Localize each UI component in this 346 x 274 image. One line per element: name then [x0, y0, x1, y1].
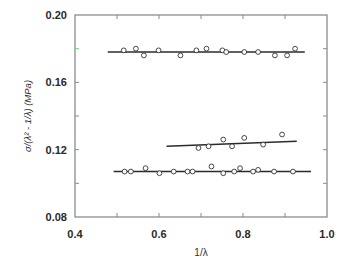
plot-frame: [75, 15, 327, 217]
data-point-lower: [291, 169, 296, 174]
tick-labels: 0.40.60.81.00.080.120.160.20: [46, 9, 335, 240]
data-point-upper: [242, 50, 247, 55]
data-point-upper: [121, 48, 126, 53]
y-tick-label: 0.12: [46, 144, 67, 156]
data-point-lower: [185, 169, 190, 174]
data-point-upper: [141, 53, 146, 58]
data-point-upper: [285, 53, 290, 58]
data-point-middle: [230, 144, 235, 149]
fit-lines: [108, 52, 311, 172]
data-point-lower: [122, 169, 127, 174]
data-point-lower: [221, 171, 226, 176]
data-point-lower: [238, 166, 243, 171]
data-point-upper: [156, 48, 161, 53]
data-point-upper: [273, 53, 278, 58]
x-tick-label: 1.0: [319, 228, 334, 240]
data-point-upper: [204, 46, 209, 51]
x-tick-label: 0.8: [235, 228, 250, 240]
axis-ticks: [75, 15, 327, 217]
plot-border: [75, 15, 327, 217]
data-point-lower: [256, 167, 261, 172]
data-point-middle: [196, 146, 201, 151]
data-point-lower: [232, 169, 237, 174]
x-tick-label: 0.6: [151, 228, 166, 240]
data-point-middle: [242, 135, 247, 140]
data-point-lower: [251, 169, 256, 174]
data-point-lower: [157, 171, 162, 176]
data-point-upper: [194, 48, 199, 53]
data-point-lower: [171, 169, 176, 174]
data-point-upper: [178, 53, 183, 58]
y-tick-label: 0.20: [46, 9, 67, 21]
x-tick-label: 0.4: [67, 228, 83, 240]
data-point-lower: [128, 169, 133, 174]
y-tick-label: 0.08: [46, 211, 67, 223]
data-point-middle: [206, 144, 211, 149]
data-point-upper: [256, 50, 261, 55]
data-point-lower: [272, 169, 277, 174]
data-point-middle: [280, 132, 285, 137]
data-points: [121, 46, 297, 175]
x-axis-title: 1/λ: [194, 247, 207, 258]
y-tick-label: 0.16: [46, 76, 67, 88]
scatter-plot: 0.40.60.81.00.080.120.160.20 1/λ σ/(λ² -…: [0, 0, 346, 274]
data-point-upper: [293, 46, 298, 51]
data-point-lower: [143, 166, 148, 171]
data-point-upper: [224, 50, 229, 55]
y-axis-title: σ/(λ² - 1/λ) (MPa): [22, 80, 33, 152]
chart-figure: 0.40.60.81.00.080.120.160.20 1/λ σ/(λ² -…: [0, 0, 346, 274]
data-point-middle: [261, 142, 266, 147]
data-point-lower: [190, 169, 195, 174]
data-point-lower: [209, 164, 214, 169]
data-point-middle: [221, 137, 226, 142]
data-point-upper: [134, 46, 139, 51]
